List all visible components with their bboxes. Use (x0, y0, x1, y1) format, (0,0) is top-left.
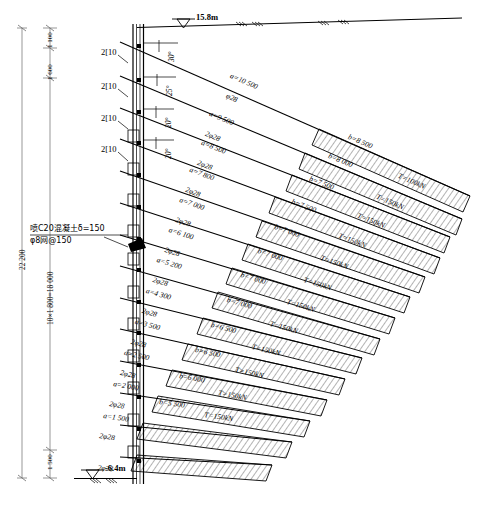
drawing-canvas: 15.8m -6.4m 22 200 1 100 1 600 10×1 800=… (0, 0, 479, 510)
angle-label-1: 30° (168, 52, 176, 63)
shotcrete-note: 喷C20混凝土δ=150 (30, 225, 105, 233)
waler-label-2: 2[10 (101, 82, 117, 91)
dimension-1100: 1 100 (47, 32, 54, 48)
total-depth-dimension: 22 200 (19, 249, 27, 270)
waler-leader-lines (118, 55, 128, 161)
mesh-note: φ8网@150 (30, 237, 72, 245)
waler-label-1: 2[10 (101, 48, 117, 57)
dimension-1600: 1 600 (47, 64, 54, 80)
anchor-13-bar: 2φ28 (97, 464, 113, 473)
anchor-14-bond-zone (131, 455, 272, 481)
spacing-dimension: 10×1 800=18 000 (47, 272, 55, 325)
dimension-1500: 1 500 (47, 454, 54, 470)
angle-label-4: 20° (165, 149, 173, 160)
anchor-row-14 (120, 455, 272, 481)
angle-label-3: 20° (165, 118, 173, 129)
waler-label-3: 2[10 (101, 114, 117, 123)
angle-label-2: 25° (166, 86, 174, 97)
retaining-wall-face (133, 24, 144, 484)
anchor-12-bar: 2φ28 (99, 432, 115, 442)
top-elevation-label: 15.8m (196, 13, 218, 22)
waler-label-4: 2[10 (101, 145, 117, 154)
